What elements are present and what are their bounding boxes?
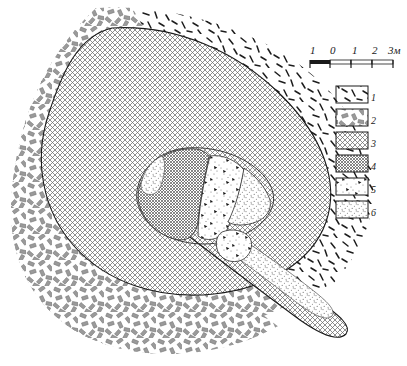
legend-number-5: 5 (371, 184, 376, 195)
legend-swatch-3 (336, 132, 368, 149)
legend-swatch-4 (336, 155, 368, 172)
scale-tick-label: 1 (310, 44, 316, 56)
zone-chamber-south-cell (216, 230, 251, 262)
legend-item-1: 1 (336, 86, 376, 103)
legend-number-1: 1 (371, 92, 376, 103)
legend-swatch-5 (336, 178, 368, 195)
legend-swatch-2 (336, 109, 368, 126)
scale-unit-label: 3м (387, 44, 401, 56)
legend-swatch-1 (336, 86, 368, 103)
figure-root: 1 0 1 2 3м 1 2 3 (0, 0, 407, 366)
scale-tick-label: 2 (372, 44, 378, 56)
legend-number-4: 4 (371, 161, 376, 172)
legend-item-3: 3 (336, 132, 376, 149)
plan-svg: 1 0 1 2 3м 1 2 3 (0, 0, 407, 366)
legend-number-2: 2 (371, 115, 376, 126)
scale-bar: 1 0 1 2 3м (310, 44, 401, 68)
legend-number-6: 6 (371, 207, 376, 218)
scale-bar-graphic (310, 60, 393, 68)
legend-number-3: 3 (370, 138, 376, 149)
legend-item-2: 2 (336, 109, 376, 126)
scale-tick-label: 1 (352, 44, 358, 56)
legend-swatch-6 (336, 201, 368, 218)
scale-tick-label: 0 (330, 44, 336, 56)
